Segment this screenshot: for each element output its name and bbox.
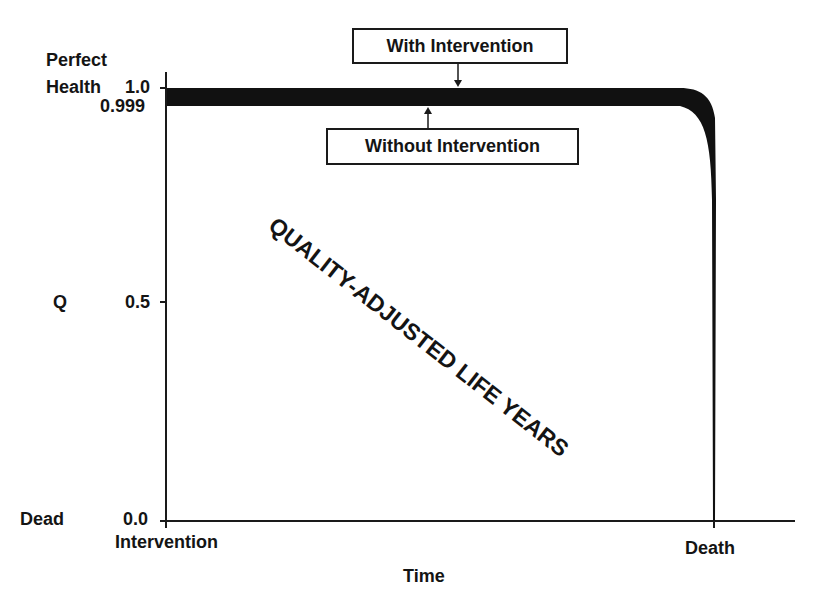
callout-without-intervention: Without Intervention	[326, 128, 579, 165]
without-arrow-head	[424, 107, 432, 114]
chart-canvas	[0, 0, 813, 607]
y-tick-label-0-5: 0.5	[125, 292, 150, 313]
y-label-perfect: Perfect	[46, 50, 107, 71]
callout-with-intervention: With Intervention	[352, 28, 568, 64]
with-arrow-head	[454, 80, 462, 87]
x-label-intervention: Intervention	[115, 532, 218, 553]
x-label-death: Death	[685, 538, 735, 559]
y-label-health: Health	[46, 77, 101, 98]
y-tick-label-1-0: 1.0	[125, 77, 150, 98]
y-tick-label-0-999: 0.999	[100, 96, 145, 117]
y-label-dead: Dead	[20, 509, 64, 530]
y-tick-label-0-0: 0.0	[123, 509, 148, 530]
x-axis-title: Time	[403, 566, 445, 587]
y-label-q: Q	[53, 292, 67, 313]
